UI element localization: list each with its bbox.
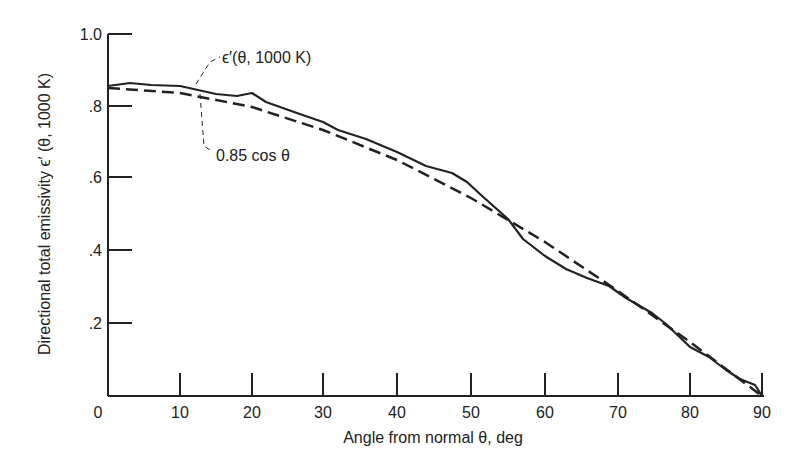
x-tick-label: 70: [609, 404, 627, 421]
x-tick-label: 20: [243, 404, 261, 421]
x-tick-label: 50: [462, 404, 480, 421]
annotation-leader-measured: [196, 57, 220, 84]
series-measured-curve: [108, 83, 762, 396]
annotation-cos: 0.85 cos θ: [216, 147, 290, 164]
x-tick-label: 0: [94, 404, 103, 421]
x-tick-label: 30: [314, 404, 332, 421]
x-tick-label: 60: [536, 404, 554, 421]
emissivity-chart: 1.0 .8 .6 .4 .2 0 10 20 30 40 50 60 70 8…: [0, 0, 802, 471]
x-tick-label: 80: [681, 404, 699, 421]
x-tick-label: 40: [388, 404, 406, 421]
annotation-leader-cos: [200, 94, 210, 150]
x-tick-label: 10: [171, 404, 189, 421]
y-ticks: [108, 34, 132, 323]
x-tick-label: 90: [753, 404, 771, 421]
y-tick-label: .2: [89, 315, 102, 332]
annotation-measured: ϵ′(θ, 1000 K): [222, 49, 311, 66]
x-axis-title: Angle from normal θ, deg: [343, 429, 523, 446]
y-tick-label: .8: [89, 98, 102, 115]
x-ticks: [180, 373, 762, 396]
series-cos-curve: [108, 88, 762, 396]
y-axis-title: Directional total emissivity ϵ′ (θ, 1000…: [36, 73, 53, 355]
y-tick-label: .6: [89, 169, 102, 186]
y-tick-label: 1.0: [80, 26, 102, 43]
y-tick-label: .4: [89, 242, 102, 259]
